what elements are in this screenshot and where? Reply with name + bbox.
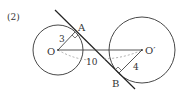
right-angle-mark-a [72, 35, 78, 38]
label-b: B [112, 78, 119, 89]
two-circles-tangent-diagram: (2) O O′ A B 3 10 4 [0, 0, 180, 97]
label-a: A [77, 22, 86, 33]
label-o-prime: O′ [145, 45, 156, 56]
problem-number: (2) [7, 12, 20, 22]
length-o-prime-b: 4 [133, 62, 139, 72]
center-dot-o-prime [141, 49, 143, 51]
label-o: O [47, 46, 55, 57]
length-oa: 3 [59, 34, 65, 44]
length-oo-prime: 10 [86, 57, 98, 67]
right-angle-mark-b [115, 67, 121, 70]
center-dot-o [57, 49, 59, 51]
tangent-line [55, 10, 135, 89]
